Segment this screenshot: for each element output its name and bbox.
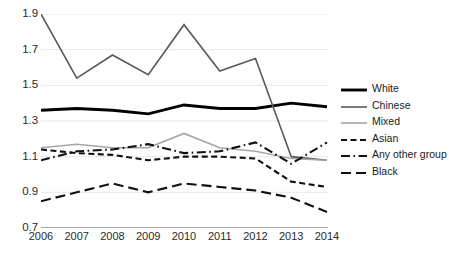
legend-label: Black xyxy=(372,165,398,177)
y-tick-label: 1.1 xyxy=(4,151,38,162)
legend-label: White xyxy=(372,82,399,94)
x-tick-label: 2013 xyxy=(271,230,311,242)
legend-swatch-white xyxy=(341,82,367,94)
line-chart: 0.70.91.11.31.51.71.9 200620072008200920… xyxy=(0,0,449,256)
x-tick-label: 2007 xyxy=(57,230,97,242)
series-line-black xyxy=(41,183,327,212)
legend-item: Mixed xyxy=(341,113,449,130)
plot-area xyxy=(41,14,328,228)
x-tick-label: 2006 xyxy=(21,230,61,242)
legend-swatch-mixed xyxy=(341,115,367,127)
chart-legend: WhiteChineseMixedAsianAny other groupBla… xyxy=(341,80,449,179)
y-axis: 0.70.91.11.31.51.71.9 xyxy=(0,0,38,256)
x-tick-label: 2008 xyxy=(93,230,133,242)
x-tick-label: 2012 xyxy=(236,230,276,242)
legend-label: Asian xyxy=(372,132,398,144)
plot-svg xyxy=(41,14,328,228)
legend-item: Asian xyxy=(341,130,449,147)
series-line-chinese xyxy=(41,14,327,160)
x-tick-label: 2009 xyxy=(128,230,168,242)
y-tick-label: 1.9 xyxy=(4,8,38,19)
y-tick-label: 0.9 xyxy=(4,186,38,197)
x-tick-label: 2014 xyxy=(307,230,347,242)
x-tick-label: 2010 xyxy=(164,230,204,242)
x-tick-label: 2011 xyxy=(200,230,240,242)
legend-swatch-any-other-group xyxy=(341,148,367,160)
y-tick-label: 1.3 xyxy=(4,115,38,126)
y-tick-label: 1.7 xyxy=(4,44,38,55)
legend-label: Mixed xyxy=(372,115,400,127)
legend-item: White xyxy=(341,80,449,97)
legend-swatch-asian xyxy=(341,132,367,144)
legend-item: Any other group xyxy=(341,146,449,163)
x-axis: 200620072008200920102011201220132014 xyxy=(41,230,328,250)
legend-item: Chinese xyxy=(341,97,449,114)
legend-item: Black xyxy=(341,163,449,180)
series-line-asian xyxy=(41,150,327,187)
series-line-white xyxy=(41,103,327,114)
legend-label: Any other group xyxy=(372,148,447,160)
y-tick-label: 1.5 xyxy=(4,79,38,90)
legend-label: Chinese xyxy=(372,99,411,111)
legend-swatch-black xyxy=(341,165,367,177)
legend-swatch-chinese xyxy=(341,99,367,111)
